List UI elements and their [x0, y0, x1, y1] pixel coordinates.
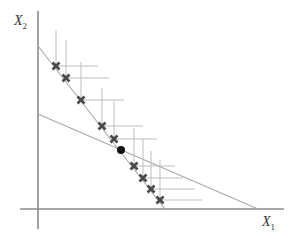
guide-lines	[56, 30, 202, 200]
intersection-dot	[117, 146, 125, 154]
y-axis-label: X2	[13, 13, 27, 31]
x-axis-label: X1	[261, 214, 275, 232]
shallow-line	[38, 114, 258, 209]
markers	[53, 63, 164, 204]
consumption-diagram: X2 X1	[0, 0, 298, 239]
